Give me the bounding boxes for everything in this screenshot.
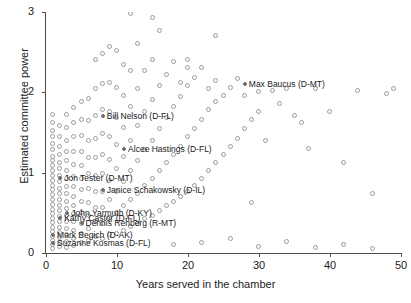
data-point [128, 104, 133, 109]
data-point [71, 105, 76, 110]
data-point [242, 126, 247, 131]
data-point [242, 93, 247, 98]
data-point [206, 86, 211, 91]
x-axis-title: Years served in the chamber [0, 278, 411, 290]
data-point [199, 65, 204, 70]
y-tick-mark [42, 12, 45, 13]
data-point [86, 186, 91, 191]
data-point [86, 138, 91, 143]
data-point [256, 89, 261, 94]
data-point [292, 113, 297, 118]
data-point [171, 242, 176, 247]
data-point [71, 162, 76, 167]
data-point [150, 138, 155, 143]
x-tick-mark [330, 254, 331, 257]
data-point [114, 85, 119, 90]
data-point [64, 149, 69, 154]
data-point [50, 128, 55, 133]
x-tick-mark [188, 254, 189, 257]
data-point [171, 199, 176, 204]
data-point [100, 107, 105, 112]
data-point [64, 199, 69, 204]
data-point [86, 96, 91, 101]
data-point [277, 101, 282, 106]
x-tick-label: 10 [97, 260, 137, 271]
data-point [86, 200, 91, 205]
point-annotation-label: Suzanne Kosmas (D-FL) [57, 239, 151, 248]
data-point [213, 160, 218, 165]
data-point [384, 91, 389, 96]
data-point [79, 187, 84, 192]
data-point [107, 80, 112, 85]
data-point [185, 65, 190, 70]
data-point [50, 158, 55, 163]
data-point [50, 154, 55, 159]
data-point [50, 112, 55, 117]
data-point [50, 183, 55, 188]
data-point [157, 126, 162, 131]
data-point [64, 191, 69, 196]
x-tick-label: 50 [381, 260, 411, 271]
data-point [128, 197, 133, 202]
x-tick-mark [117, 254, 118, 257]
data-point [192, 126, 197, 131]
data-point [306, 146, 311, 151]
data-point [213, 99, 218, 104]
data-point [256, 109, 261, 114]
data-point [228, 144, 233, 149]
x-tick-mark [259, 254, 260, 257]
data-point [100, 81, 105, 86]
data-point [107, 134, 112, 139]
data-point [121, 154, 126, 159]
data-point [57, 186, 62, 191]
point-annotation-label: Jon Tester (D-MT) [64, 174, 132, 183]
data-point [355, 88, 360, 93]
data-point [50, 197, 55, 202]
data-point [157, 83, 162, 88]
y-tick-label: 0 [4, 247, 34, 258]
data-point [107, 44, 112, 49]
data-point [221, 152, 226, 157]
data-point [57, 134, 62, 139]
data-point [93, 189, 98, 194]
data-point [341, 160, 346, 165]
data-point [178, 94, 183, 99]
data-point [221, 93, 226, 98]
data-point [150, 57, 155, 62]
data-point [121, 125, 126, 130]
data-point [135, 86, 140, 91]
y-axis-title: Estimated committee power [18, 26, 30, 206]
highlighted-data-point [122, 147, 126, 151]
data-point [64, 184, 69, 189]
data-point [249, 117, 254, 122]
data-point [100, 131, 105, 136]
data-point [135, 123, 140, 128]
data-point [71, 194, 76, 199]
data-point [57, 179, 62, 184]
data-point [93, 57, 98, 62]
data-point [50, 173, 55, 178]
data-point [57, 203, 62, 208]
data-point [64, 125, 69, 130]
data-point [79, 163, 84, 168]
y-tick-mark [42, 173, 45, 174]
data-point [121, 93, 126, 98]
y-tick-label: 3 [4, 6, 34, 17]
data-point [164, 203, 169, 208]
data-point [50, 168, 55, 173]
data-point [57, 208, 62, 213]
data-point [213, 33, 218, 38]
data-point [93, 136, 98, 141]
data-point [142, 68, 147, 73]
data-point [370, 191, 375, 196]
data-point [50, 220, 55, 225]
data-point [341, 242, 346, 247]
data-point [71, 184, 76, 189]
data-point [114, 142, 119, 147]
data-point [50, 163, 55, 168]
point-annotation-label: Bill Nelson (D-FL) [107, 112, 174, 121]
data-point [121, 62, 126, 67]
data-point [164, 72, 169, 77]
x-tick-mark [46, 254, 47, 257]
data-point [79, 133, 84, 138]
